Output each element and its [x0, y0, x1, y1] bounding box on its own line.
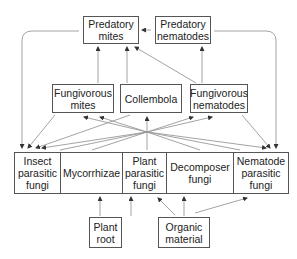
node-insect-parasitic-fungi: Insect parasitic fungi	[15, 153, 61, 193]
node-organic-material: Organic material	[158, 217, 210, 248]
node-plant-root: Plant root	[89, 217, 122, 248]
connector-arrows	[0, 0, 297, 259]
node-fungivorous-mites: Fungivorous mites	[52, 84, 114, 113]
node-fungivorous-nematodes: Fungivorous nematodes	[190, 84, 248, 113]
node-predatory-mites: Predatory mites	[83, 16, 139, 44]
node-predatory-nematodes: Predatory nematodes	[155, 16, 211, 44]
node-nematode-parasitic-fungi: Nematode parasitic fungi	[234, 153, 288, 193]
node-plant-parasitic-fungi: Plant parasitic fungi	[123, 153, 167, 193]
node-mycorrhizae: Mycorrhizae	[61, 153, 123, 193]
food-web-diagram: Predatory mites Predatory nematodes Fung…	[0, 0, 297, 259]
node-collembola: Collembola	[120, 84, 182, 113]
fungi-row: Insect parasitic fungi Mycorrhizae Plant…	[14, 152, 289, 194]
node-decomposer-fungi: Decomposer fungi	[167, 153, 234, 193]
